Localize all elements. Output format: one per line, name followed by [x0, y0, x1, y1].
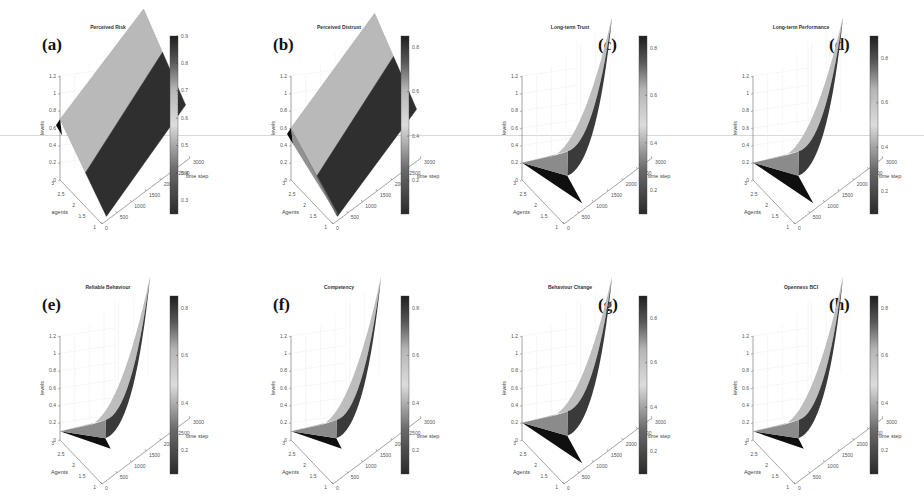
colorbar — [401, 36, 409, 214]
colorbar-tick-label: 0.8 — [650, 45, 657, 51]
z-tick-label: 0.4 — [511, 142, 518, 148]
time-tick-label: 0 — [567, 485, 570, 491]
time-tick-label: 3000 — [655, 159, 666, 165]
time-tick-label: 3000 — [193, 159, 204, 165]
time-tick-mark — [160, 178, 161, 180]
colorbar-tick-label: 0.3 — [181, 197, 188, 203]
colorbar-tick-label: 0.2 — [412, 447, 419, 453]
agents-tick-label: 2.5 — [289, 191, 296, 197]
z-tick-label: 0.8 — [280, 107, 287, 113]
time-tick-mark — [823, 200, 824, 202]
time-tick-label: 1000 — [596, 203, 607, 209]
time-tick-label: 1500 — [611, 192, 622, 198]
agents-tick-label: 2.5 — [289, 451, 296, 457]
z-tick-label: 0.2 — [280, 159, 287, 165]
z-tick-label: 0.2 — [742, 419, 749, 425]
grid-line — [753, 380, 808, 388]
agents-axis-label: Agents — [744, 209, 761, 215]
time-tick-label: 0 — [105, 485, 108, 491]
time-tick-mark — [882, 416, 883, 418]
agents-tick-label: 3 — [744, 180, 747, 186]
time-tick-mark — [361, 460, 362, 462]
colorbar-tick-label: 0.4 — [181, 170, 188, 176]
time-tick-label: 1500 — [380, 452, 391, 458]
agents-tick-label: 3 — [51, 440, 54, 446]
subplot-g: Behaviour Change(g)00.20.40.60.811.232.5… — [462, 260, 693, 504]
grid-line — [522, 328, 577, 336]
time-tick-mark — [578, 211, 579, 213]
z-tick-label: 1.2 — [280, 73, 287, 79]
time-tick-label: 500 — [351, 214, 360, 220]
time-tick-label: 1500 — [149, 192, 160, 198]
surface-plot: Perceived Distrust(b)00.20.40.60.811.232… — [231, 0, 462, 252]
panel-label: (e) — [42, 295, 61, 314]
z-axis-label: levels — [270, 121, 276, 135]
colorbar — [639, 296, 647, 474]
subplot-e: Reliable Behaviour(e)00.20.40.60.811.232… — [0, 260, 231, 504]
colorbar-tick-label: 0.6 — [412, 88, 419, 94]
time-tick-label: 1500 — [842, 192, 853, 198]
z-tick-label: 0.8 — [280, 367, 287, 373]
agents-tick-label: 2.5 — [751, 191, 758, 197]
colorbar-tick-label: 0.4 — [412, 133, 419, 139]
z-tick-mark — [751, 440, 753, 441]
plot-title: Perceived Risk — [90, 24, 126, 30]
agents-tick-label: 1.5 — [772, 213, 779, 219]
colorbar — [639, 36, 647, 214]
colorbar-tick-label: 0.8 — [881, 55, 888, 61]
time-tick-mark — [867, 427, 868, 429]
z-axis-label: levels — [39, 121, 45, 135]
z-tick-label: 0.8 — [511, 107, 518, 113]
time-tick-mark — [853, 438, 854, 440]
time-tick-mark — [636, 167, 637, 169]
time-tick-mark — [130, 200, 131, 202]
z-tick-label: 0.6 — [280, 385, 287, 391]
agents-axis-label: Agents — [513, 469, 530, 475]
time-tick-mark — [622, 178, 623, 180]
time-tick-mark — [882, 156, 883, 158]
z-tick-label: 0.2 — [49, 419, 56, 425]
time-tick-label: 3000 — [424, 419, 435, 425]
surface-patch-light — [60, 277, 150, 432]
z-tick-label: 1.2 — [280, 333, 287, 339]
z-tick-label: 0.6 — [280, 125, 287, 131]
z-tick-label: 0.4 — [742, 142, 749, 148]
grid-line — [291, 397, 346, 405]
z-tick-label: 0.8 — [511, 367, 518, 373]
z-tick-label: 1 — [284, 350, 287, 356]
z-tick-label: 0.6 — [511, 385, 518, 391]
z-tick-mark — [520, 440, 522, 441]
surface-plot: Long-term Performance(d)00.20.40.60.811.… — [693, 0, 924, 252]
colorbar-tick-label: 0.2 — [181, 447, 188, 453]
colorbar-tick-label: 0.8 — [881, 305, 888, 311]
grid-line — [291, 363, 346, 371]
agents-tick-label: 2 — [72, 202, 75, 208]
time-tick-label: 1000 — [365, 463, 376, 469]
time-tick-mark — [838, 189, 839, 191]
time-tick-mark — [651, 156, 652, 158]
time-axis-label: time step — [648, 433, 670, 439]
subplot-h: Openness BCI(h)00.20.40.60.811.232.521.5… — [693, 260, 924, 504]
agents-tick-label: 1 — [324, 224, 327, 230]
z-tick-label: 0.4 — [280, 402, 287, 408]
z-tick-label: 1.2 — [49, 333, 56, 339]
grid-line — [60, 397, 115, 405]
colorbar — [401, 296, 409, 474]
time-tick-label: 1000 — [365, 203, 376, 209]
z-tick-label: 0.8 — [49, 107, 56, 113]
z-axis-label: levels — [39, 381, 45, 395]
time-tick-label: 3000 — [424, 159, 435, 165]
agents-tick-label: 1 — [555, 484, 558, 490]
z-tick-label: 1 — [515, 350, 518, 356]
grid-line — [60, 345, 115, 353]
z-tick-label: 1.2 — [49, 73, 56, 79]
plot-title: Long-term Performance — [773, 24, 830, 30]
surface-plot: Reliable Behaviour(e)00.20.40.60.811.232… — [0, 260, 231, 504]
time-axis-label: time step — [648, 173, 670, 179]
panel-label: (f) — [273, 295, 290, 314]
time-tick-mark — [391, 438, 392, 440]
time-tick-mark — [391, 178, 392, 180]
time-tick-mark — [189, 416, 190, 418]
colorbar — [870, 36, 878, 214]
plot-title: Reliable Behaviour — [85, 284, 130, 290]
